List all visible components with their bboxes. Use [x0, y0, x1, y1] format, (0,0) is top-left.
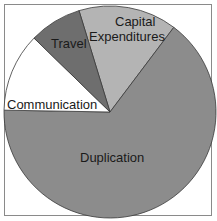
- label-capital-line2: Expenditures: [89, 29, 165, 44]
- label-communication: Communication: [7, 97, 97, 112]
- label-capital-line1: Capital: [115, 14, 156, 29]
- label-duplication: Duplication: [80, 150, 144, 165]
- pie-chart: Capital Expenditures Travel Communicatio…: [0, 0, 217, 221]
- label-travel: Travel: [51, 36, 87, 51]
